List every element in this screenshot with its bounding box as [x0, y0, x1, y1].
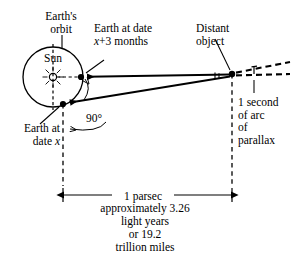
label-earth-at-date-x: Earth atdate x	[2, 122, 60, 147]
label-one-second-of-arc-of-parallax: 1 secondof arcofparallax	[238, 96, 292, 146]
label-angle-90-degrees: 90°	[86, 112, 118, 125]
label-earths-orbit: Earth'sorbit	[28, 10, 94, 35]
label-one-parsec: 1 parsec	[112, 190, 174, 203]
diagram-page: Earth'sorbit Earth at datex+3 months Dis…	[0, 0, 292, 256]
angle-90-arc	[84, 79, 88, 100]
sightline-from-earth-x	[70, 77, 230, 103]
sightline-from-earth-x3	[87, 75, 230, 77]
label-parsec-equivalents: approximately 3.26light yearsor 19.2tril…	[50, 202, 240, 254]
label-sun: Sun	[32, 52, 74, 65]
arcsecond-bracket	[252, 66, 258, 74]
parallax-rays-dashed	[236, 62, 290, 75]
label-earth-at-date-x-plus-3-months: Earth at datex+3 months	[94, 22, 186, 47]
earth-marker-x-plus-3	[78, 74, 84, 80]
label-distant-object: Distantobject	[196, 22, 258, 47]
earth-x3-leader	[86, 60, 104, 73]
